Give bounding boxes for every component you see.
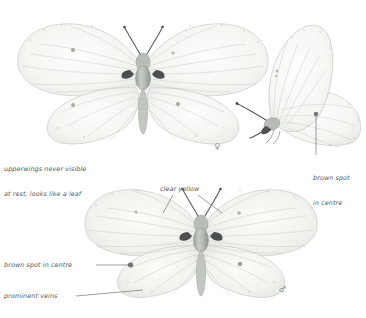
wing-spot — [71, 48, 75, 52]
wing-spot — [238, 262, 242, 266]
male-symbol: ♂ — [279, 285, 286, 294]
wing-spot — [71, 103, 75, 107]
female-symbol: ♀ — [214, 142, 220, 151]
leader-dot-brown-spot-side — [314, 112, 318, 116]
callout-prominent-veins: prominent veins — [4, 292, 58, 300]
callout-upperwings-line1: upperwings never visible — [4, 165, 86, 173]
callout-brown-spot-side: brown spot in centre — [313, 158, 350, 215]
female-butterfly-upperside — [18, 24, 268, 144]
wing-spot — [176, 102, 180, 106]
wing-spot — [134, 210, 137, 213]
callout-brown-spot-male: brown spot in centre — [4, 261, 72, 269]
wing-spot — [275, 75, 277, 77]
callout-clear-yellow: clear yellow — [160, 185, 199, 193]
wing-spot — [237, 211, 241, 215]
wing-spot — [276, 70, 279, 73]
male-butterfly-upperside — [85, 188, 317, 298]
callout-brown-spot-side-line1: brown spot — [313, 174, 350, 182]
leader-clear-yellow-right — [198, 195, 222, 213]
callout-brown-spot-side-line2: in centre — [313, 199, 350, 207]
callout-upperwings-line2: at rest, looks like a leaf — [4, 190, 86, 198]
callout-upperwings: upperwings never visible at rest, looks … — [4, 149, 86, 206]
leader-dot-brown-spot-male — [128, 263, 132, 267]
wing-spot — [171, 51, 174, 54]
